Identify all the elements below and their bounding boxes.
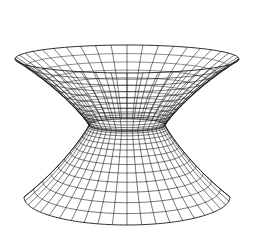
figure-canvas: Wireframe surface of revolution (wormhol…	[0, 0, 257, 241]
wireframe-line	[163, 63, 234, 205]
wireframe-line	[20, 63, 91, 205]
wireframe-line	[132, 73, 143, 225]
wormhole-wireframe-surface	[0, 0, 257, 241]
wireframe-line	[111, 73, 122, 225]
wireframe-line	[66, 47, 106, 120]
wireframe-line	[148, 47, 188, 120]
